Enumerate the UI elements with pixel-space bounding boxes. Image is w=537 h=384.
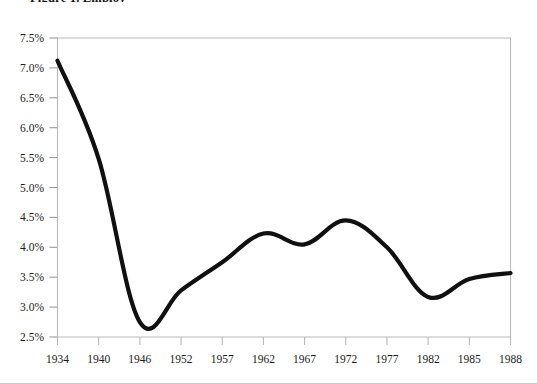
x-tick-label: 1972	[334, 353, 357, 365]
x-tick-label: 1934	[46, 353, 69, 365]
x-tick-label: 1985	[458, 353, 481, 365]
data-series-line	[58, 61, 511, 329]
x-tick-label: 1967	[293, 353, 316, 365]
y-tick-label: 5.0%	[20, 182, 44, 194]
y-tick-label: 5.5%	[20, 152, 44, 164]
plot-frame	[58, 38, 511, 337]
y-tick-label: 4.5%	[20, 211, 44, 223]
x-tick-label: 1977	[375, 353, 398, 365]
y-tick-label: 7.5%	[20, 32, 44, 44]
x-tick-label: 1946	[128, 353, 151, 365]
y-tick-label: 3.5%	[20, 271, 44, 283]
figure-container: Figure 1. Employ 2.5%3.0%3.5%4.0%4.5%5.0…	[0, 0, 537, 384]
x-tick-label: 1982	[417, 353, 440, 365]
x-tick-label: 1988	[499, 353, 522, 365]
y-tick-label: 7.0%	[20, 62, 44, 74]
x-tick-label: 1957	[211, 353, 234, 365]
y-axis-tick-marks	[50, 38, 59, 337]
x-tick-label: 1962	[252, 353, 275, 365]
y-tick-label: 3.0%	[20, 301, 44, 313]
y-tick-label: 6.0%	[20, 122, 44, 134]
x-axis-tick-labels: 1934194019461952195719621967197219771982…	[46, 353, 522, 365]
x-axis-tick-marks	[58, 337, 511, 345]
y-tick-label: 2.5%	[20, 331, 44, 343]
y-axis-tick-labels: 2.5%3.0%3.5%4.0%4.5%5.0%5.5%6.0%6.5%7.0%…	[20, 32, 44, 343]
y-tick-label: 6.5%	[20, 92, 44, 104]
x-tick-label: 1940	[87, 353, 110, 365]
y-tick-label: 4.0%	[20, 241, 44, 253]
line-chart: 2.5%3.0%3.5%4.0%4.5%5.0%5.5%6.0%6.5%7.0%…	[0, 0, 537, 384]
x-tick-label: 1952	[170, 353, 193, 365]
